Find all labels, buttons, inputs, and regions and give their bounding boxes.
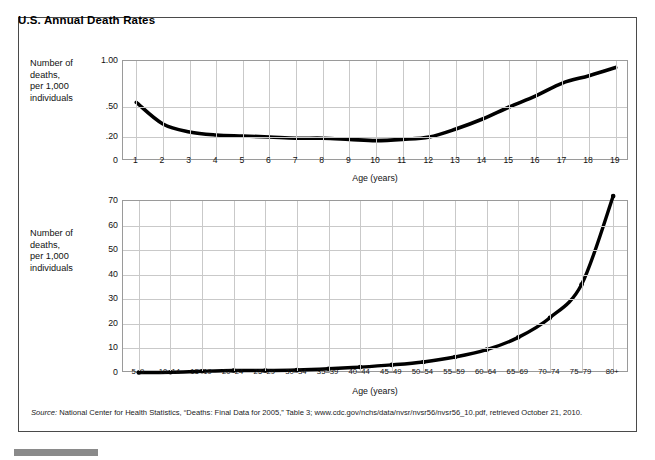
chart1-gridline-vertical bbox=[269, 61, 270, 159]
chart1-gridline-vertical bbox=[136, 61, 137, 159]
chart2-gridline-vertical bbox=[423, 201, 424, 371]
chart2-gridline-vertical bbox=[455, 201, 456, 371]
chart2-gridline-horizontal bbox=[123, 250, 627, 251]
chart2-x-axis-title: Age (years) bbox=[122, 386, 628, 396]
chart2-gridline-vertical bbox=[170, 201, 171, 371]
source-label: Source: bbox=[31, 408, 57, 417]
source-note: Source: National Center for Health Stati… bbox=[31, 408, 631, 418]
chart1-gridline-vertical bbox=[163, 61, 164, 159]
chart2-y-tick-label: 40 bbox=[78, 269, 118, 279]
chart1-gridline-vertical bbox=[323, 61, 324, 159]
chart2-x-tick-label: 20–24 bbox=[222, 367, 243, 376]
chart2-x-tick-label: 5–9 bbox=[131, 367, 144, 376]
chart1-gridline-vertical bbox=[190, 61, 191, 159]
chart1-x-tick-label: 15 bbox=[503, 155, 513, 165]
chart2-gridline-vertical bbox=[360, 201, 361, 371]
chart1-x-tick-label: 4 bbox=[213, 155, 218, 165]
chart1-x-tick-label: 13 bbox=[450, 155, 460, 165]
chart1-gridline-vertical bbox=[456, 61, 457, 159]
chart2-gridline-vertical bbox=[613, 201, 614, 371]
chart2-gridline-vertical bbox=[518, 201, 519, 371]
chart2-x-tick-label: 35–39 bbox=[317, 367, 338, 376]
chart2-gridline-horizontal bbox=[123, 275, 627, 276]
chart1-plot-area bbox=[122, 60, 628, 160]
chart1-y-tick-label: .50 bbox=[78, 101, 118, 111]
chart2-x-tick-label: 25–29 bbox=[254, 367, 275, 376]
chart2-gridline-vertical bbox=[202, 201, 203, 371]
chart2-gridline-horizontal bbox=[123, 348, 627, 349]
chart1-gridline-vertical bbox=[429, 61, 430, 159]
chart2-gridline-vertical bbox=[329, 201, 330, 371]
chart1-y-tick-label: 0 bbox=[78, 155, 118, 165]
chart2-y-tick-label: 50 bbox=[78, 244, 118, 254]
chart1-x-tick-label: 11 bbox=[397, 155, 406, 165]
chart2-gridline-horizontal bbox=[123, 226, 627, 227]
chart1-gridline-vertical bbox=[536, 61, 537, 159]
chart1-gridline-vertical bbox=[243, 61, 244, 159]
chart1-gridline-vertical bbox=[349, 61, 350, 159]
chart1-x-tick-label: 8 bbox=[319, 155, 324, 165]
chart1-x-tick-label: 12 bbox=[423, 155, 433, 165]
chart1-gridline-vertical bbox=[509, 61, 510, 159]
chart1-x-tick-label: 6 bbox=[266, 155, 271, 165]
chart1-x-tick-label: 5 bbox=[239, 155, 244, 165]
chart2-gridline-vertical bbox=[550, 201, 551, 371]
chart1-y-tick-label: .20 bbox=[78, 131, 118, 141]
chart1-x-tick-label: 19 bbox=[610, 155, 620, 165]
chart2-y-tick-label: 0 bbox=[78, 367, 118, 377]
chart2-x-tick-label: 75–79 bbox=[570, 367, 591, 376]
chart1-x-axis-title: Age (years) bbox=[122, 173, 628, 183]
chart1-gridline-vertical bbox=[403, 61, 404, 159]
chart1-gridline-vertical bbox=[562, 61, 563, 159]
chart1-gridline-vertical bbox=[483, 61, 484, 159]
chart2-y-tick-label: 30 bbox=[78, 293, 118, 303]
chart1-x-tick-label: 17 bbox=[557, 155, 567, 165]
chart2-gridline-vertical bbox=[392, 201, 393, 371]
chart1-y-tick-label: 1.00 bbox=[78, 55, 118, 65]
chart1-x-tick-label: 18 bbox=[583, 155, 593, 165]
chart2-x-tick-label: 60–64 bbox=[475, 367, 496, 376]
chart2-plot-area bbox=[122, 200, 628, 372]
chart2-gridline-horizontal bbox=[123, 299, 627, 300]
chart2-x-tick-label: 65–69 bbox=[507, 367, 528, 376]
chart1-gridline-vertical bbox=[589, 61, 590, 159]
chart2-gridline-horizontal bbox=[123, 324, 627, 325]
chart1-x-tick-label: 14 bbox=[477, 155, 487, 165]
chart1-gridline-vertical bbox=[616, 61, 617, 159]
chart2-x-tick-label: 50–54 bbox=[412, 367, 433, 376]
chart2-x-tick-label: 15–19 bbox=[190, 367, 211, 376]
chart1-x-tick-label: 10 bbox=[370, 155, 380, 165]
chart2-y-tick-label: 60 bbox=[78, 220, 118, 230]
chart1-gridline-vertical bbox=[296, 61, 297, 159]
chart2-gridline-vertical bbox=[139, 201, 140, 371]
chart1-x-tick-label: 2 bbox=[160, 155, 165, 165]
chart2-data-point bbox=[611, 194, 616, 199]
chart2-gridline-vertical bbox=[582, 201, 583, 371]
chart1-x-tick-label: 16 bbox=[530, 155, 540, 165]
chart2-x-tick-label: 70–74 bbox=[538, 367, 559, 376]
bottom-gray-bar bbox=[14, 449, 98, 456]
chart2-y-tick-label: 20 bbox=[78, 318, 118, 328]
chart2-gridline-vertical bbox=[265, 201, 266, 371]
chart1-gridline-vertical bbox=[376, 61, 377, 159]
chart2-x-tick-label: 40–44 bbox=[348, 367, 369, 376]
chart2-line-path bbox=[139, 196, 613, 372]
chart2-x-tick-label: 45–49 bbox=[380, 367, 401, 376]
chart2-x-tick-label: 80+ bbox=[606, 367, 619, 376]
chart1-x-tick-label: 1 bbox=[133, 155, 138, 165]
chart2-y-tick-label: 70 bbox=[78, 195, 118, 205]
chart2-gridline-vertical bbox=[487, 201, 488, 371]
chart1-gridline-vertical bbox=[216, 61, 217, 159]
chart1-x-tick-label: 3 bbox=[186, 155, 191, 165]
chart1-gridline-horizontal bbox=[123, 107, 627, 108]
chart2-gridline-vertical bbox=[234, 201, 235, 371]
page-title: U.S. Annual Death Rates bbox=[18, 14, 155, 26]
chart2-x-tick-label: 10–14 bbox=[159, 367, 180, 376]
chart1-x-tick-label: 7 bbox=[293, 155, 298, 165]
chart2-x-tick-label: 55–59 bbox=[443, 367, 464, 376]
chart1-x-tick-label: 9 bbox=[346, 155, 351, 165]
chart2-y-tick-label: 10 bbox=[78, 342, 118, 352]
source-text: National Center for Health Statistics, “… bbox=[57, 408, 582, 417]
chart2-x-tick-label: 30–34 bbox=[285, 367, 306, 376]
chart1-gridline-horizontal bbox=[123, 137, 627, 138]
